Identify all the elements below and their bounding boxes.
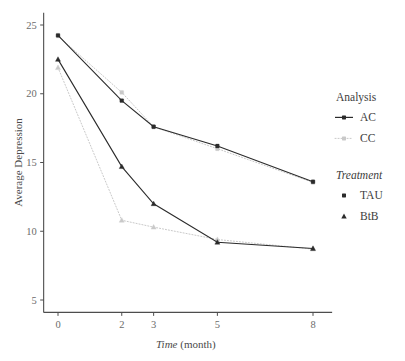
x-tick-label: 5	[215, 319, 220, 330]
data-point	[311, 180, 315, 184]
y-tick-label: 25	[26, 20, 37, 31]
x-axis-title: Time (month)	[156, 338, 216, 351]
y-tick-label: 20	[26, 88, 37, 99]
x-tick-label: 3	[151, 319, 156, 330]
y-tick-label: 15	[26, 157, 37, 168]
data-point	[215, 144, 219, 148]
x-tick-label: 2	[119, 319, 124, 330]
legend-key-circle	[342, 193, 346, 197]
legend-key-point	[342, 136, 346, 140]
y-axis-title: Average Depression	[12, 118, 24, 207]
legend-entry-label[interactable]: CC	[360, 132, 376, 144]
chart-root: 51015202502358 Time (month)Average Depre…	[0, 0, 405, 361]
data-point	[120, 90, 124, 94]
y-tick-label: 10	[26, 226, 37, 237]
legend-key-point	[342, 115, 346, 119]
data-point	[56, 33, 60, 37]
x-axis-title-italic: Time	[156, 338, 178, 350]
x-tick-label: 8	[310, 319, 315, 330]
x-tick-label: 0	[55, 319, 60, 330]
x-axis-title-plain: (month)	[177, 338, 216, 351]
data-point	[120, 99, 124, 103]
legend-entry-label[interactable]: BtB	[360, 210, 379, 222]
legend-title: Treatment	[336, 169, 383, 181]
data-point	[152, 125, 156, 129]
legend-entry-label[interactable]: TAU	[360, 189, 383, 201]
legend-entry-label[interactable]: AC	[360, 111, 376, 123]
line-chart: 51015202502358 Time (month)Average Depre…	[0, 0, 405, 361]
y-tick-label: 5	[31, 295, 36, 306]
legend-title: Analysis	[336, 91, 377, 104]
